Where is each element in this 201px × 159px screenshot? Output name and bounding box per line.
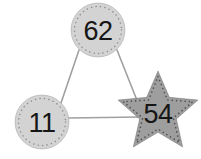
- node-62[interactable]: 62: [71, 3, 125, 57]
- node-62-label: 62: [83, 16, 112, 46]
- node-11-label: 11: [28, 108, 55, 138]
- graph-canvas: 11 54 62: [0, 0, 201, 159]
- node-54-label: 54: [143, 99, 173, 129]
- node-11[interactable]: 11: [15, 95, 69, 149]
- edge-62-11[interactable]: [61, 50, 79, 103]
- graph-svg: 11 54 62: [0, 0, 201, 159]
- node-layer: 11 54 62: [15, 3, 198, 149]
- edge-11-54[interactable]: [69, 117, 140, 118]
